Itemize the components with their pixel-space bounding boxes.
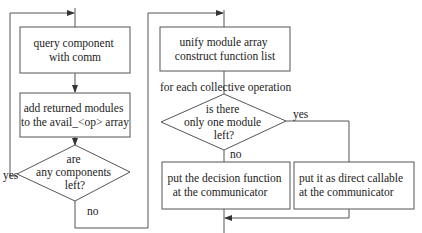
- query-component-box: [20, 27, 130, 73]
- add-box-line-1: add returned modules: [24, 102, 124, 114]
- decision2-line-2: only one module: [184, 116, 261, 129]
- unify-module-array-box: [160, 27, 290, 71]
- decision1-no-label: no: [87, 205, 99, 217]
- query-box-line-2: with comm: [49, 51, 101, 63]
- unify-box-line-1: unify module array: [179, 36, 267, 49]
- unify-box-line-2: construct function list: [175, 50, 276, 62]
- decision1-line-2: any components: [36, 166, 112, 179]
- decision1-line-1: are: [67, 153, 81, 165]
- decision2-no-label: no: [230, 148, 242, 160]
- add-modules-box: [20, 93, 130, 137]
- for-each-operation-label: for each collective operation: [160, 81, 291, 94]
- direct-box-line-2: at the communicator: [299, 186, 394, 198]
- decision-fn-box-line-1: put the decision function: [168, 172, 282, 185]
- decision1-line-3: left?: [65, 179, 85, 191]
- decision2-yes-connector: [286, 121, 349, 162]
- direct-box-line-1: put it as direct callable: [299, 172, 403, 185]
- svg-text:add returned modules to th: add returned modules to the avail_<op> a…: [21, 102, 129, 129]
- query-box-line-1: query component: [33, 37, 114, 50]
- flowchart-diagram: query component with comm add returned m…: [0, 0, 422, 233]
- decision2-line-3: left?: [214, 129, 234, 141]
- decision-fn-box-line-2: at the communicator: [173, 186, 268, 198]
- decision2-yes-label: yes: [293, 108, 309, 121]
- direct-merge-connector: [225, 209, 349, 218]
- decision2-line-1: is there: [206, 103, 240, 115]
- add-box-line-2: to the avail_<op> array: [21, 116, 129, 129]
- decision1-yes-label: yes: [3, 169, 19, 182]
